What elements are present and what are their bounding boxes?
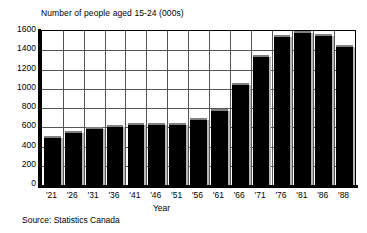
y-axis-tick-label: 600	[2, 121, 36, 130]
x-axis-tick-label: '51	[166, 190, 188, 200]
y-axis-tick-label: 800	[2, 102, 36, 111]
y-axis-tick-mark	[38, 165, 42, 166]
bar-top-highlight	[169, 123, 186, 125]
bar-body	[336, 45, 353, 185]
bar-chart-figure: Number of people aged 15-24 (000s) 16001…	[0, 0, 367, 233]
bar-body	[65, 131, 82, 185]
x-axis-title: Year	[0, 203, 367, 213]
x-axis-tick-label: '21	[40, 190, 62, 200]
x-axis-tick-label: '88	[333, 190, 355, 200]
bar-top-highlight	[44, 136, 61, 138]
bar-body	[86, 127, 103, 185]
y-axis-tick-mark	[38, 88, 42, 89]
x-axis-tick-label: '66	[228, 190, 250, 200]
x-axis-tick-label: '46	[145, 190, 167, 200]
y-axis-tick-mark	[38, 49, 42, 50]
bar-body	[190, 118, 207, 185]
bar-body	[211, 109, 228, 185]
y-axis-tick-mark	[38, 69, 42, 70]
bar-top-highlight	[65, 131, 82, 133]
x-axis-baseline	[38, 185, 358, 188]
y-axis-tick-label: 0	[2, 179, 36, 188]
bar	[211, 31, 230, 185]
x-axis-tick-label: '41	[124, 190, 146, 200]
bar-top-highlight	[107, 125, 124, 127]
source-note: Source: Statistics Canada	[22, 215, 120, 225]
gridline-vertical	[63, 31, 64, 185]
x-axis-tick-label: '31	[82, 190, 104, 200]
bar-body	[148, 123, 165, 185]
bar	[294, 31, 313, 185]
x-axis-tick-label: '81	[291, 190, 313, 200]
chart-title: Number of people aged 15-24 (000s)	[41, 8, 184, 19]
bar-body	[44, 136, 61, 185]
gridline-vertical	[167, 31, 168, 185]
x-axis-tick-label: '86	[312, 190, 334, 200]
y-axis-tick-label: 200	[2, 160, 36, 169]
bar-body	[253, 55, 270, 185]
gridline-vertical	[230, 31, 231, 185]
y-axis-tick-label: 1400	[2, 44, 36, 53]
y-axis-tick-labels: 16001400120010008006004002000	[0, 0, 36, 233]
y-axis-tick-mark	[38, 30, 42, 31]
x-axis-title-label: Year	[153, 203, 170, 213]
x-axis-tick-label: '76	[270, 190, 292, 200]
bar	[86, 31, 105, 185]
bar	[336, 31, 355, 185]
gridline-vertical	[334, 31, 335, 185]
plot-inner	[42, 31, 355, 185]
bar	[44, 31, 63, 185]
gridline-vertical	[188, 31, 189, 185]
y-axis-tick-label: 1600	[2, 25, 36, 34]
bar-top-highlight	[190, 118, 207, 120]
x-axis-tick-label: '26	[61, 190, 83, 200]
bar-top-highlight	[253, 55, 270, 57]
bar	[65, 31, 84, 185]
x-axis-tick-label: '61	[207, 190, 229, 200]
bar-body	[169, 123, 186, 185]
y-axis-tick-label: 1200	[2, 64, 36, 73]
bar-body	[274, 35, 291, 185]
bar	[253, 31, 272, 185]
y-axis-tick-mark	[38, 126, 42, 127]
bar-body	[107, 125, 124, 185]
y-axis-tick-mark	[38, 107, 42, 108]
plot-area	[41, 30, 356, 186]
bar	[274, 31, 293, 185]
bar	[169, 31, 188, 185]
bar-body	[128, 123, 145, 185]
bar	[315, 31, 334, 185]
bar-top-highlight	[86, 127, 103, 129]
bar	[148, 31, 167, 185]
bar-body	[315, 34, 332, 185]
y-axis-tick-label: 1000	[2, 83, 36, 92]
x-axis-tick-label: '56	[187, 190, 209, 200]
bar-top-highlight	[274, 35, 291, 37]
bar	[190, 31, 209, 185]
bar-top-highlight	[336, 45, 353, 47]
bar-top-highlight	[232, 83, 249, 85]
x-axis-tick-label: '36	[103, 190, 125, 200]
gridline-vertical	[209, 31, 210, 185]
bar-top-highlight	[315, 34, 332, 36]
bar-top-highlight	[148, 123, 165, 125]
bar-top-highlight	[128, 123, 145, 125]
bar	[128, 31, 147, 185]
y-axis-tick-mark	[38, 184, 42, 185]
bar-body	[232, 83, 249, 186]
bar-body	[294, 31, 311, 185]
bar	[232, 31, 251, 185]
bar-top-highlight	[294, 31, 311, 33]
bar	[107, 31, 126, 185]
y-axis-tick-label: 400	[2, 141, 36, 150]
x-axis-tick-label: '71	[249, 190, 271, 200]
bar-top-highlight	[211, 109, 228, 111]
y-axis-tick-mark	[38, 146, 42, 147]
